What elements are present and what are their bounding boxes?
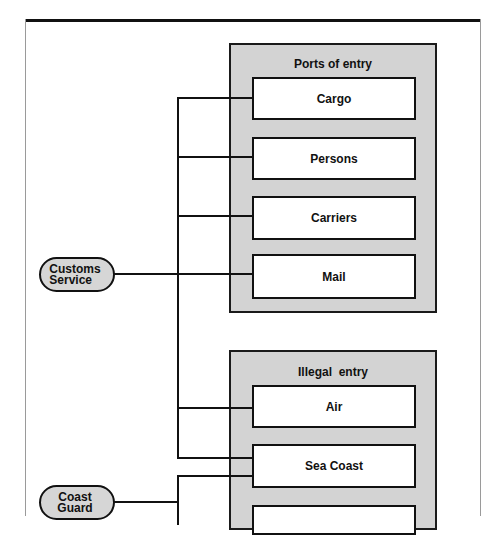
box-cut-off	[252, 505, 416, 535]
frame-left-border	[25, 19, 26, 516]
agency-coast-guard: Coast Guard	[39, 485, 115, 520]
group-title: Illegal entry	[231, 365, 435, 379]
connector-cargo	[177, 97, 254, 99]
box-carriers: Carriers	[252, 196, 416, 240]
group-title: Ports of entry	[231, 57, 435, 71]
agency-label-line2: Service	[49, 275, 100, 286]
box-air: Air	[252, 385, 416, 428]
customs-trunk-line	[177, 97, 179, 459]
group-illegal-entry: Illegal entry	[229, 350, 437, 530]
agency-label-line2: Guard	[57, 503, 92, 514]
connector-air	[177, 407, 254, 409]
connector-sea-coast-coast-guard	[177, 475, 254, 477]
connector-carriers	[177, 215, 254, 217]
box-persons: Persons	[252, 137, 416, 180]
box-cargo: Cargo	[252, 77, 416, 120]
frame-right-border	[480, 19, 481, 516]
connector-mail	[113, 273, 254, 275]
frame-top-rule	[25, 19, 481, 22]
box-sea-coast: Sea Coast	[252, 444, 416, 488]
connector-coast-guard	[113, 501, 179, 503]
connector-persons	[177, 156, 254, 158]
coast-guard-trunk-line	[177, 475, 179, 525]
connector-sea-coast-customs	[177, 457, 254, 459]
agency-customs-service: Customs Service	[39, 257, 115, 292]
box-mail: Mail	[252, 254, 416, 299]
